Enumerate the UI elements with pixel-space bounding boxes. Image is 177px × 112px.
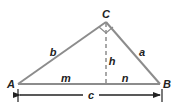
- segment-label-n: n: [122, 72, 129, 84]
- right-triangle-diagram: C A B b a h m n c: [0, 0, 177, 112]
- vertex-label-b: B: [163, 78, 171, 90]
- dimension-label-c: c: [88, 89, 94, 101]
- altitude-label-h: h: [109, 55, 116, 67]
- side-label-b: b: [50, 46, 57, 58]
- vertex-label-a: A: [6, 78, 15, 90]
- side-label-a: a: [139, 46, 145, 58]
- vertex-label-c: C: [102, 8, 111, 20]
- side-a: [106, 22, 160, 84]
- segment-label-m: m: [61, 72, 71, 84]
